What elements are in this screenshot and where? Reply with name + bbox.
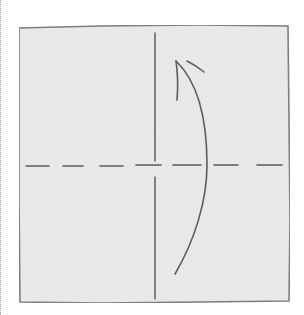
fold-diagram — [0, 0, 304, 315]
